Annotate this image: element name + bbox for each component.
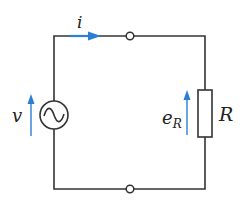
resistor-voltage-label-subscript: R xyxy=(172,117,182,131)
source-voltage-arrow-head-icon xyxy=(28,94,35,104)
current-arrow xyxy=(70,32,101,41)
current-arrow-head-icon xyxy=(88,32,101,41)
top-terminal xyxy=(126,32,134,40)
wires xyxy=(54,36,205,189)
bottom-terminal xyxy=(126,185,134,193)
wire-top-left xyxy=(54,36,126,101)
source-voltage-label: v xyxy=(12,105,22,126)
current-label: i xyxy=(77,12,82,32)
wire-bottom-left xyxy=(54,129,126,189)
wire-bottom-right xyxy=(134,137,205,189)
resistor xyxy=(198,90,212,137)
circuit-diagram: i v eR R xyxy=(0,0,252,214)
ac-source xyxy=(40,101,68,129)
wire-top-right xyxy=(134,36,205,90)
resistor-voltage-arrow-head-icon xyxy=(184,90,191,100)
resistor-voltage-arrow xyxy=(184,90,191,135)
source-voltage-arrow xyxy=(28,94,35,136)
resistor-voltage-label: eR xyxy=(162,107,182,131)
resistor-label: R xyxy=(218,103,233,125)
resistor-voltage-label-main: e xyxy=(162,107,173,128)
